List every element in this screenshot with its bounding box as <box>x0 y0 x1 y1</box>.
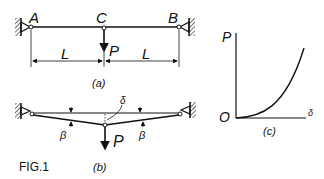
wall-left-b <box>15 103 21 119</box>
label-load-b: P <box>113 133 124 150</box>
deflected-member-left <box>33 115 105 125</box>
figure-caption: FIG.1 <box>19 160 49 174</box>
label-span-right: L <box>142 45 150 62</box>
panel-c: P δ O (c) <box>219 29 314 137</box>
label-c: C <box>96 9 107 26</box>
wall-right <box>189 18 195 36</box>
wall-left <box>15 18 21 36</box>
label-span-left: L <box>61 45 69 62</box>
label-beta-left: β <box>59 129 67 141</box>
joint-c <box>102 26 106 30</box>
label-beta-right: β <box>138 129 146 141</box>
label-load-a: P <box>109 42 119 59</box>
load-deflection-curve <box>236 48 304 118</box>
figure-canvas: A C B P L L (a) δ P β β <box>0 0 324 179</box>
x-axis-label: δ <box>308 108 314 118</box>
label-delta: δ <box>120 95 126 106</box>
panel-a: A C B P L L (a) <box>15 9 195 89</box>
label-a: A <box>28 9 39 26</box>
panel-b-caption: (b) <box>93 161 107 173</box>
origin-label: O <box>219 109 230 125</box>
wall-right-b <box>190 102 196 118</box>
deflected-member-right <box>105 115 179 125</box>
panel-c-caption: (c) <box>263 125 276 137</box>
label-b: B <box>168 9 178 26</box>
panel-a-caption: (a) <box>92 77 106 89</box>
y-axis-label: P <box>222 29 232 45</box>
